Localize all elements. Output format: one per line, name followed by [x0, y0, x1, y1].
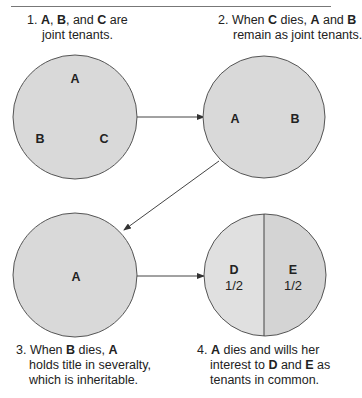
circle-label-a: A [230, 112, 239, 126]
circle-label-e: E [289, 263, 297, 277]
circle-label-d: D [229, 263, 238, 277]
arrow-step2-to-step3 [124, 161, 219, 230]
step-2-circle: A B [203, 56, 325, 178]
circle-label-a: A [71, 270, 80, 284]
circle-label-b: B [35, 132, 44, 146]
share-d: 1/2 [225, 278, 243, 293]
step-4-circle: D 1/2 E 1/2 [204, 214, 326, 336]
share-e: 1/2 [284, 278, 302, 293]
circle-label-a: A [70, 72, 79, 86]
circle-label-c: C [99, 132, 108, 146]
step-1-circle: A B C [13, 55, 137, 179]
step-3-circle: A [13, 213, 137, 337]
circle-label-b: B [290, 112, 299, 126]
party-b: B [347, 13, 356, 27]
